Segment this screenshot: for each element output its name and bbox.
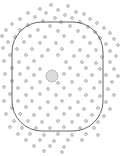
particle: [81, 139, 84, 142]
particle: [93, 127, 96, 130]
particle: [75, 11, 78, 14]
particle: [97, 134, 100, 137]
particle: [67, 5, 70, 8]
particle: [47, 88, 50, 91]
particle: [79, 127, 82, 130]
particle: [96, 22, 99, 25]
particle: [25, 139, 28, 142]
particle: [39, 42, 42, 45]
particle: [50, 4, 53, 7]
particle: [109, 108, 112, 111]
particle: [63, 73, 66, 76]
center-particle: [46, 70, 58, 82]
particle: [37, 29, 40, 32]
particle: [39, 8, 42, 11]
particle: [54, 17, 57, 20]
particle: [31, 48, 34, 51]
particle: [109, 32, 112, 35]
particle: [95, 62, 98, 65]
particle: [103, 115, 106, 118]
particle: [2, 47, 5, 50]
particle: [73, 55, 76, 58]
particle: [19, 18, 22, 21]
particle: [61, 48, 64, 51]
particle: [45, 12, 48, 15]
particle: [63, 113, 66, 116]
particle: [5, 113, 8, 116]
particle: [34, 16, 37, 19]
particle: [39, 68, 42, 71]
particle: [17, 100, 20, 103]
particle: [105, 74, 108, 77]
particle: [43, 150, 46, 153]
particle: [33, 74, 36, 77]
particle: [31, 87, 34, 90]
particle: [27, 12, 30, 15]
particle: [55, 42, 58, 45]
particle: [117, 75, 120, 78]
particle: [57, 82, 60, 85]
particle: [91, 100, 94, 103]
particle: [71, 121, 74, 124]
particle: [7, 41, 10, 44]
particle: [33, 145, 36, 148]
particle: [81, 61, 84, 64]
particle: [3, 60, 6, 63]
particle: [19, 73, 22, 76]
particle: [99, 68, 102, 71]
particle: [39, 81, 42, 84]
particle: [27, 67, 30, 70]
particle: [83, 108, 86, 111]
particle: [109, 50, 112, 53]
particle: [39, 93, 42, 96]
particle: [87, 55, 90, 58]
particle: [11, 23, 14, 26]
particle: [49, 25, 52, 28]
particle: [9, 54, 12, 57]
particle: [65, 61, 68, 64]
particle: [29, 35, 32, 38]
particle: [23, 41, 26, 44]
particle: [57, 30, 60, 33]
particle: [57, 120, 60, 123]
particle: [61, 100, 64, 103]
particle: [85, 80, 88, 83]
particle: [49, 127, 52, 130]
particle: [91, 114, 94, 117]
particle: [19, 113, 22, 116]
particle: [21, 127, 24, 130]
particle: [69, 94, 72, 97]
particle: [55, 107, 58, 110]
particle: [85, 67, 88, 70]
particle: [63, 126, 66, 129]
particle: [69, 107, 72, 110]
particle: [77, 101, 80, 104]
particle: [89, 42, 92, 45]
particle: [13, 120, 16, 123]
particle: [55, 94, 58, 97]
particle: [5, 29, 8, 32]
particle: [63, 87, 66, 90]
particle: [97, 121, 100, 124]
particle: [18, 61, 21, 64]
particle: [61, 151, 64, 154]
particle-diagram: [0, 0, 134, 156]
particle: [117, 44, 120, 47]
particle: [67, 139, 70, 142]
particle: [53, 140, 56, 143]
particle: [107, 88, 110, 91]
particle: [39, 139, 42, 142]
particle: [77, 30, 80, 33]
particle: [25, 54, 28, 57]
particle: [91, 74, 94, 77]
particle: [31, 100, 34, 103]
particle: [25, 106, 28, 109]
particle: [64, 14, 67, 17]
particle: [57, 133, 60, 136]
particle: [99, 95, 102, 98]
particle: [63, 35, 66, 38]
particle: [85, 133, 88, 136]
particle: [27, 120, 30, 123]
particle: [25, 94, 28, 97]
particle: [71, 41, 74, 44]
